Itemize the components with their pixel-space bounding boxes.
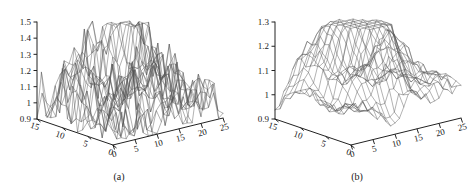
z-tick-label: 0.9 [258,114,270,124]
z-tick-label: 1.3 [258,17,270,27]
figure-container: 05101520251510500.911.11.21.31.41.5(a) 0… [0,0,476,188]
panel-caption-b: (b) [351,171,363,183]
surface-chart-a: 05101520251510500.911.11.21.31.41.5(a) [0,0,238,188]
x-tick-label: 10 [391,137,403,149]
y-axis-line [275,119,351,145]
y-tick-label: 10 [54,129,66,141]
mesh-col-line [94,21,170,126]
x-tick-label: 15 [175,132,187,144]
surface-mesh-b [275,19,461,126]
y-tick-label: 5 [82,138,90,149]
z-tick-label: 1 [27,98,32,108]
surface-plot-panel-a: 05101520251510500.911.11.21.31.41.5(a) [0,0,238,188]
mesh-col-line [301,26,377,119]
z-tick-label: 1.2 [20,66,31,76]
mesh-col-line [328,19,404,107]
panel-caption-a: (a) [113,171,124,183]
y-tick-label: 5 [320,138,328,149]
z-tick-label: 0.9 [20,114,32,124]
z-tick-label: 1.4 [20,33,32,43]
x-tick-label: 5 [133,143,140,154]
z-tick-label: 1 [265,90,270,100]
surface-plot-panel-b: 05101520251510500.911.11.21.3(b) [238,0,476,188]
y-tick-label: 10 [292,129,304,141]
mesh-col-line [293,54,369,111]
x-tick-label: 15 [413,132,425,144]
mesh-col-line [147,64,223,114]
mesh-row-line [351,85,461,126]
mesh-col-line [99,22,175,119]
z-tick-label: 1.2 [258,41,269,51]
z-tick-label: 1.5 [20,17,32,27]
mesh-row-line [300,19,410,94]
mesh-row-line [321,23,431,112]
z-tick-label: 1.1 [20,82,31,92]
x-tick-label: 25 [457,121,469,133]
surface-chart-b: 05101520251510500.911.11.21.3(b) [238,0,476,188]
mesh-row-line [346,79,456,118]
x-tick-label: 10 [153,137,165,149]
x-tick-label: 25 [219,121,231,133]
surface-mesh-a [37,21,223,139]
z-tick-label: 1.3 [20,50,32,60]
z-tick-label: 1.1 [258,66,269,76]
x-tick-label: 20 [197,126,209,138]
mesh-row-line [326,24,436,113]
axes-group-a: 05101520251510500.911.11.21.31.41.5 [20,17,231,159]
y-axis-line [37,119,113,145]
x-tick-label: 5 [371,143,378,154]
x-tick-label: 20 [435,126,447,138]
